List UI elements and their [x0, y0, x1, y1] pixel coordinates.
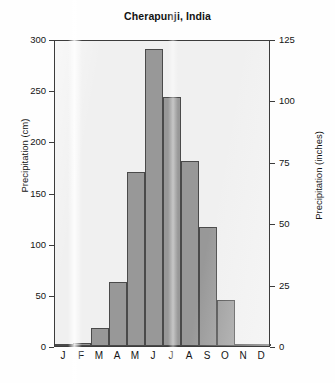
y-tick-label-right-125: 125	[279, 34, 295, 45]
x-tick-label-january: J	[54, 350, 72, 361]
x-tick-label-may: M	[126, 350, 144, 361]
y-tick-left-300	[49, 40, 54, 41]
y-tick-label-left-250: 250	[30, 85, 46, 96]
y-tick-label-right-0: 0	[279, 341, 284, 352]
bar-december	[253, 344, 271, 346]
bar-april	[109, 282, 127, 346]
bar-january	[55, 344, 73, 346]
y-tick-label-left-50: 50	[35, 290, 46, 301]
bar-series	[55, 41, 269, 346]
y-tick-label-left-200: 200	[30, 136, 46, 147]
y-tick-label-left-300: 300	[30, 34, 46, 45]
y-tick-right-50	[270, 224, 275, 225]
y-axis-title-left: Precipitation (cm)	[19, 91, 30, 221]
x-tick-label-december: D	[252, 350, 270, 361]
y-tick-label-right-25: 25	[279, 280, 290, 291]
x-tick-label-april: A	[108, 350, 126, 361]
x-tick-label-july: J	[162, 350, 180, 361]
x-tick-label-october: O	[216, 350, 234, 361]
x-axis-labels: JFMAMJJASOND	[54, 350, 270, 368]
y-tick-label-left-0: 0	[41, 341, 46, 352]
bar-november	[235, 344, 253, 346]
bar-february	[73, 343, 91, 346]
x-tick-label-september: S	[198, 350, 216, 361]
y-tick-label-right-100: 100	[279, 95, 295, 106]
y-tick-right-100	[270, 101, 275, 102]
x-tick-label-february: F	[72, 350, 90, 361]
bar-october	[217, 300, 235, 346]
x-tick-label-june: J	[144, 350, 162, 361]
y-tick-right-25	[270, 286, 275, 287]
y-axis-title-right: Precipitation (inches)	[313, 106, 324, 246]
chart-figure: Cherapunji, India Precipitation (cm) Pre…	[0, 0, 335, 383]
y-tick-left-50	[49, 296, 54, 297]
y-tick-right-75	[270, 163, 275, 164]
bar-march	[91, 328, 109, 346]
plot-area	[54, 40, 270, 347]
bar-july	[163, 97, 181, 346]
bar-may	[127, 172, 145, 346]
x-tick-label-november: N	[234, 350, 252, 361]
y-tick-right-0	[270, 347, 275, 348]
y-tick-label-left-100: 100	[30, 239, 46, 250]
x-tick-label-august: A	[180, 350, 198, 361]
y-tick-left-150	[49, 194, 54, 195]
y-tick-left-200	[49, 142, 54, 143]
y-tick-left-0	[49, 347, 54, 348]
bar-september	[199, 227, 217, 346]
y-tick-label-right-50: 50	[279, 218, 290, 229]
x-tick-label-march: M	[90, 350, 108, 361]
bar-august	[181, 161, 199, 346]
y-tick-left-100	[49, 245, 54, 246]
y-tick-left-250	[49, 91, 54, 92]
y-tick-right-125	[270, 40, 275, 41]
y-tick-label-right-75: 75	[279, 157, 290, 168]
y-tick-label-left-150: 150	[30, 188, 46, 199]
bar-june	[145, 49, 163, 346]
chart-title: Cherapunji, India	[0, 10, 335, 22]
